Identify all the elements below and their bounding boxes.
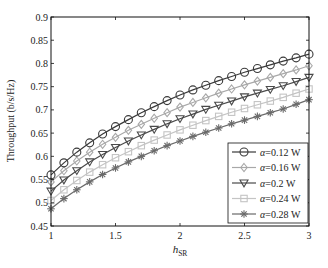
y-axis-label: Throughput (b/s/Hz): [5, 80, 17, 163]
y-tick-label: 0.75: [31, 81, 49, 92]
y-tick-label: 0.7: [36, 104, 49, 115]
asterisk-marker: [228, 120, 236, 128]
asterisk-marker: [292, 101, 300, 109]
y-tick-label: 0.65: [31, 128, 49, 139]
legend: α=0.12 Wα=0.16 Wα=0.2 Wα=0.24 Wα=0.28 W: [228, 143, 308, 223]
y-tick-label: 0.85: [31, 35, 49, 46]
asterisk-marker: [163, 142, 171, 150]
legend-label: α=0.28 W: [260, 209, 301, 220]
x-tick-label: 2: [178, 230, 183, 241]
y-tick-label: 0.45: [31, 221, 49, 232]
asterisk-marker: [254, 113, 262, 121]
asterisk-marker: [112, 164, 120, 172]
x-tick-label: 1: [49, 230, 54, 241]
asterisk-marker: [176, 137, 184, 145]
legend-label: α=0.24 W: [260, 193, 301, 204]
asterisk-marker: [86, 178, 94, 186]
x-axis-label-subscript: SR: [178, 249, 187, 258]
asterisk-marker: [267, 109, 275, 117]
y-tick-label: 0.6: [36, 151, 49, 162]
y-tick-label: 0.5: [36, 197, 49, 208]
asterisk-marker: [138, 153, 146, 161]
asterisk-marker: [125, 158, 133, 166]
y-tick-label: 0.55: [31, 174, 49, 185]
asterisk-marker: [240, 210, 248, 218]
asterisk-marker: [99, 171, 107, 179]
legend-label: α=0.12 W: [260, 147, 301, 158]
x-axis-label: hSR: [173, 243, 188, 258]
asterisk-marker: [150, 147, 158, 155]
x-tick-label: 3: [307, 230, 312, 241]
x-tick-label: 1.5: [109, 230, 122, 241]
asterisk-marker: [189, 133, 197, 141]
legend-label: α=0.2 W: [260, 178, 296, 189]
legend-label: α=0.16 W: [260, 162, 301, 173]
asterisk-marker: [279, 105, 287, 113]
y-tick-label: 0.8: [36, 58, 49, 69]
legend-item: α=0.12 W: [232, 147, 301, 158]
asterisk-marker: [215, 124, 223, 132]
asterisk-marker: [202, 128, 210, 136]
asterisk-marker: [73, 186, 81, 194]
asterisk-marker: [241, 116, 249, 124]
throughput-line-chart: 0.450.50.550.60.650.70.750.80.850.9 11.5…: [0, 0, 328, 268]
y-tick-label: 0.9: [36, 12, 49, 23]
x-tick-label: 2.5: [238, 230, 251, 241]
